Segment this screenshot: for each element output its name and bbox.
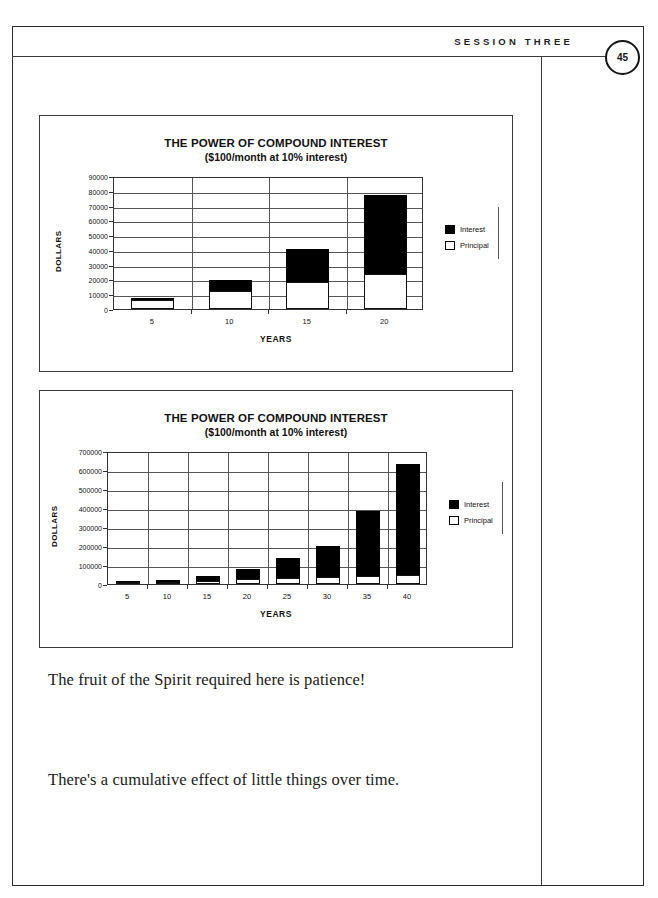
y-tick-label: 30000 [89, 262, 108, 269]
bar-15 [196, 576, 220, 584]
legend-item-interest: Interest [445, 225, 489, 234]
chart-panel-1: THE POWER OF COMPOUND INTEREST ($100/mon… [39, 115, 513, 372]
bar-segment-principal [116, 582, 140, 584]
y-tick-mark [103, 528, 107, 529]
bar-segment-interest [236, 569, 260, 579]
x-tick-mark [267, 585, 268, 589]
x-tick-mark [191, 310, 192, 314]
legend-label-principal: Principal [460, 241, 489, 250]
bar-segment-principal [396, 575, 420, 584]
y-axis-ticks: 0100000200000300000400000500000600000700… [40, 452, 102, 585]
y-tick-label: 90000 [89, 174, 108, 181]
y-tick-label: 200000 [79, 544, 102, 551]
chart-subtitle: ($100/month at 10% interest) [40, 426, 512, 440]
y-tick-label: 0 [98, 582, 102, 589]
session-label: SESSION THREE [398, 36, 573, 47]
y-tick-mark [103, 471, 107, 472]
legend-swatch-interest [449, 500, 459, 509]
bar-segment-principal [156, 582, 180, 584]
legend-item-principal: Principal [449, 516, 493, 525]
y-tick-mark [109, 221, 113, 222]
category-separator [228, 453, 229, 584]
y-tick-label: 0 [104, 307, 108, 314]
legend-item-principal: Principal [445, 241, 489, 250]
body-text-line-1: The fruit of the Spirit required here is… [48, 670, 365, 690]
y-tick-label: 40000 [89, 247, 108, 254]
x-tick-label: 20 [243, 592, 251, 601]
y-tick-label: 10000 [89, 292, 108, 299]
bar-segment-interest [286, 249, 329, 282]
legend-swatch-interest [445, 225, 455, 234]
legend-swatch-principal [449, 516, 459, 525]
y-tick-mark [103, 547, 107, 548]
x-tick-label: 40 [403, 592, 411, 601]
legend-divider [502, 482, 503, 534]
bar-10 [156, 580, 180, 584]
bar-segment-interest [209, 280, 252, 292]
bar-segment-interest [364, 195, 407, 274]
x-tick-label: 15 [303, 317, 311, 326]
x-tick-label: 20 [380, 317, 388, 326]
legend-divider [498, 207, 499, 259]
x-tick-label: 5 [150, 317, 154, 326]
bar-15 [286, 249, 329, 309]
x-tick-mark [227, 585, 228, 589]
y-tick-label: 300000 [79, 525, 102, 532]
y-tick-mark [103, 566, 107, 567]
chart-title: THE POWER OF COMPOUND INTEREST [40, 136, 512, 151]
bar-40 [396, 464, 420, 584]
legend-label-principal: Principal [464, 516, 493, 525]
grid-line [108, 491, 426, 492]
bar-segment-principal [131, 300, 174, 309]
x-tick-mark [187, 585, 188, 589]
bar-segment-principal [286, 282, 329, 309]
side-divider [541, 57, 542, 885]
bar-segment-principal [236, 579, 260, 584]
y-tick-label: 50000 [89, 233, 108, 240]
x-tick-mark [268, 310, 269, 314]
x-tick-label: 15 [203, 592, 211, 601]
x-tick-mark [147, 585, 148, 589]
plot-area-2: DOLLARS 01000002000003000004000005000006… [40, 452, 512, 620]
x-tick-label: 10 [163, 592, 171, 601]
chart-legend: Interest Principal [449, 500, 493, 532]
y-tick-mark [103, 585, 107, 586]
bar-5 [116, 583, 140, 584]
y-tick-mark [109, 310, 113, 311]
y-tick-mark [109, 192, 113, 193]
bar-20 [236, 569, 260, 584]
x-tick-label: 30 [323, 592, 331, 601]
y-tick-label: 500000 [79, 487, 102, 494]
y-tick-mark [109, 266, 113, 267]
bar-segment-principal [356, 576, 380, 584]
y-tick-label: 70000 [89, 203, 108, 210]
y-tick-mark [109, 251, 113, 252]
bar-segment-principal [209, 291, 252, 309]
bar-segment-interest [316, 546, 340, 578]
page-number-badge: 45 [605, 40, 640, 75]
x-tick-mark [387, 585, 388, 589]
plot-canvas [113, 177, 423, 310]
y-tick-mark [109, 177, 113, 178]
bar-segment-principal [196, 581, 220, 584]
bar-segment-interest [356, 511, 380, 576]
category-separator [269, 178, 270, 309]
category-separator [268, 453, 269, 584]
plot-area-1: DOLLARS 01000020000300004000050000600007… [40, 177, 512, 345]
legend-label-interest: Interest [464, 500, 489, 509]
x-tick-label: 35 [363, 592, 371, 601]
bar-segment-interest [396, 464, 420, 575]
y-tick-label: 400000 [79, 506, 102, 513]
category-separator [388, 453, 389, 584]
bar-segment-principal [276, 578, 300, 584]
y-tick-mark [103, 490, 107, 491]
category-separator [347, 178, 348, 309]
bar-segment-principal [316, 577, 340, 584]
y-tick-label: 80000 [89, 188, 108, 195]
legend-swatch-principal [445, 241, 455, 250]
chart-panel-2: THE POWER OF COMPOUND INTEREST ($100/mon… [39, 390, 513, 648]
bar-segment-interest [276, 558, 300, 579]
x-tick-mark [346, 310, 347, 314]
category-separator [348, 453, 349, 584]
bar-5 [131, 298, 174, 310]
